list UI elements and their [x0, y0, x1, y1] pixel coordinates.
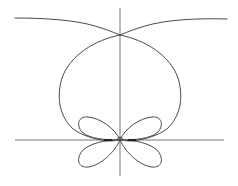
petal-upper-right — [120, 117, 161, 140]
curve-upper-wings — [15, 18, 227, 35]
polar-curve-plot — [0, 0, 238, 186]
petal-lower-left — [79, 140, 120, 167]
petal-upper-left — [79, 117, 120, 140]
petal-lower-right — [120, 140, 161, 167]
